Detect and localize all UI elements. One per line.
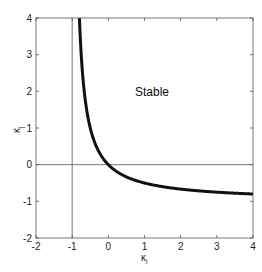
plot-area: -2-101234-2-101234 [23,13,256,253]
y-tick-label: -2 [23,233,32,244]
x-tick-label: 0 [106,241,112,252]
x-tick-label: 3 [214,241,220,252]
y-tick-label: 0 [26,159,32,170]
y-tick-label: 3 [26,49,32,60]
x-tick-label: 4 [250,241,256,252]
x-tick-label: -2 [32,241,41,252]
y-tick-label: 2 [26,86,32,97]
y-tick-label: 1 [26,123,32,134]
x-tick-label: 1 [142,241,148,252]
y-tick-label: 4 [26,13,32,24]
stability-boundary-curve [79,18,253,194]
x-tick-label: -1 [68,241,77,252]
y-axis-label-sub: j [17,126,25,129]
x-axis-label-sub: i [146,258,148,265]
y-axis-label: κj [11,126,25,133]
x-axis-label: κi [141,252,148,265]
x-tick-label: 2 [178,241,184,252]
plot-frame [36,18,253,238]
y-tick-label: -1 [23,196,32,207]
stable-region-label: Stable [135,85,169,99]
chart: -2-101234-2-101234 Stable κi κj [0,0,262,272]
